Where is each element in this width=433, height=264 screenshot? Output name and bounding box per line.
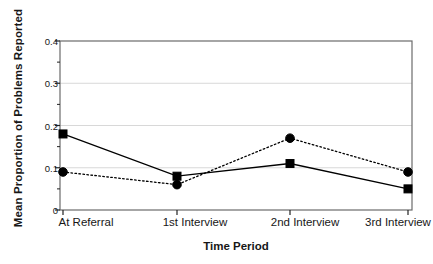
x-tick-label-2nd-interview: 2nd Interview bbox=[271, 216, 339, 228]
data-point-circle-3 bbox=[404, 168, 413, 177]
data-point-circle-1 bbox=[173, 180, 182, 189]
data-point-circle-0 bbox=[59, 168, 68, 177]
y-tick-label-0.2: 0.2 bbox=[32, 120, 58, 131]
x-tick-label-3rd-interview: 3rd Interview bbox=[365, 216, 431, 228]
data-point-square-0 bbox=[59, 130, 67, 138]
data-point-square-3 bbox=[404, 185, 412, 193]
series-line-solid-square-series bbox=[63, 134, 408, 189]
y-axis-title: Mean Proportion of Problems Reported bbox=[12, 8, 24, 228]
data-point-circle-2 bbox=[286, 134, 295, 143]
y-tick-labels: 0.4 0.3 0.2 0.1 0 bbox=[30, 0, 58, 264]
x-tick-label-at-referral: At Referral bbox=[59, 216, 114, 228]
data-point-square-1 bbox=[173, 172, 181, 180]
y-tick-label-0.3: 0.3 bbox=[32, 78, 58, 89]
y-tick-label-0.4: 0.4 bbox=[32, 36, 58, 47]
x-tick-label-1st-interview: 1st Interview bbox=[163, 216, 228, 228]
y-tick-label-0.1: 0.1 bbox=[32, 162, 58, 173]
x-axis-title: Time Period bbox=[60, 240, 412, 252]
y-tick-label-0: 0 bbox=[32, 205, 58, 216]
data-point-square-2 bbox=[286, 160, 294, 168]
chart-figure: Mean Proportion of Problems Reported Tim… bbox=[0, 0, 433, 264]
